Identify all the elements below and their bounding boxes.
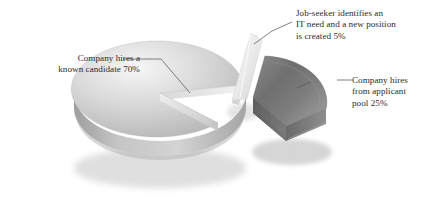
label-it-need: Job-seeker identifies an IT need and a n… xyxy=(296,8,432,42)
label-known-candidate-line2: known candidate 70% xyxy=(18,64,140,75)
label-applicant-pool-line2: from applicant xyxy=(352,86,432,97)
label-known-candidate-line1: Company hires a xyxy=(18,53,140,64)
label-applicant-pool-line1: Company hires xyxy=(352,75,432,86)
label-it-need-line2: IT need and a new position xyxy=(296,19,432,30)
label-applicant-pool-line3: pool 25% xyxy=(352,98,432,109)
label-known-candidate: Company hires a known candidate 70% xyxy=(18,53,140,76)
label-it-need-line1: Job-seeker identifies an xyxy=(296,8,432,19)
label-applicant-pool: Company hires from applicant pool 25% xyxy=(352,75,432,109)
pie-chart-figure: Company hires a known candidate 70% Job-… xyxy=(0,0,432,203)
label-it-need-line3: is created 5% xyxy=(296,31,432,42)
pie-slice-applicant-pool xyxy=(253,56,327,141)
